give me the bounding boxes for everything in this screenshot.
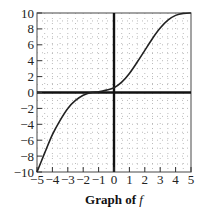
y-tick-label: −6 xyxy=(20,133,34,148)
y-tick-label: −4 xyxy=(20,117,34,132)
y-tick-label: 4 xyxy=(28,53,35,68)
x-tick-label: 1 xyxy=(126,172,133,187)
x-tick-label: −1 xyxy=(92,172,106,187)
x-tick-label: 3 xyxy=(157,172,164,187)
x-tick-label: −3 xyxy=(61,172,75,187)
y-tick-label: −10 xyxy=(14,165,34,180)
y-tick-label: −8 xyxy=(20,149,34,164)
x-tick-label: 4 xyxy=(172,172,179,187)
y-tick-label: 6 xyxy=(28,37,35,52)
x-tick-label: −2 xyxy=(76,172,90,187)
x-tick-label: 5 xyxy=(188,172,195,187)
x-tick-label: 2 xyxy=(142,172,149,187)
y-tick-label: 10 xyxy=(21,6,34,21)
chart-title: Graph of f xyxy=(85,192,145,207)
y-tick-label: 8 xyxy=(28,21,35,36)
y-tick-label: 0 xyxy=(28,85,35,100)
x-tick-label: −4 xyxy=(45,172,59,187)
y-tick-label: −2 xyxy=(20,101,34,116)
y-tick-label: 2 xyxy=(28,69,35,84)
x-tick-label: 0 xyxy=(111,172,118,187)
graph-of-f-chart: −5−4−3−2−10123451086420−2−4−6−8−10Graph … xyxy=(0,0,211,213)
